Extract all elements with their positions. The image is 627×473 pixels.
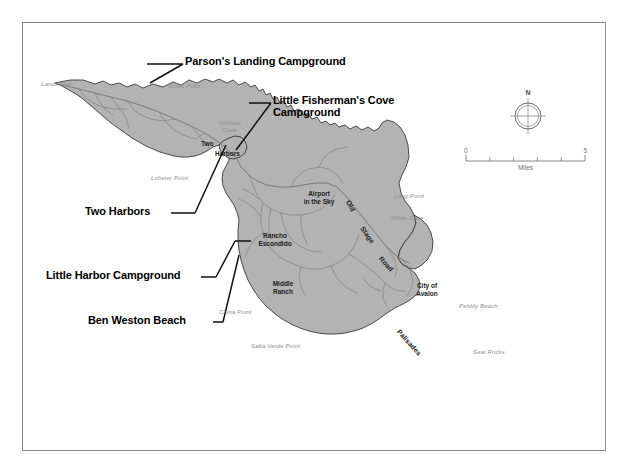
callout-label-little-fishermans-cove: Little Fisherman's Cove Campground xyxy=(273,95,423,118)
place-label-china-point: China Point xyxy=(219,309,252,316)
place-label-arrow-point: Arrow Point xyxy=(168,83,201,90)
callout-label-parsons-landing: Parson's Landing Campground xyxy=(185,56,346,68)
isthmus-cove-line-1: Isthmus xyxy=(219,120,241,126)
place-label-long-point: Long Point xyxy=(394,193,424,200)
place-label-isthmus-cove: Isthmus Cove xyxy=(213,120,247,134)
leader-line-parsons-landing xyxy=(147,64,183,83)
compass-rose: N xyxy=(505,89,551,137)
middle-ranch-line-2: Ranch xyxy=(273,288,293,295)
compass-north-letter: N xyxy=(505,89,551,96)
scale-bar-min-label: 0 xyxy=(464,147,468,154)
map-frame-border: Parson's Landing Campground Little Fishe… xyxy=(22,22,606,451)
middle-ranch-line-1: Middle xyxy=(273,280,294,287)
rancho-line-2: Escondido xyxy=(258,240,291,247)
two-harbors-line-2: Harbors xyxy=(215,150,240,157)
place-label-lobster-point: Lobster Point xyxy=(151,175,188,182)
place-label-white-cove: White Cove xyxy=(391,215,424,222)
map-page: Parson's Landing Campground Little Fishe… xyxy=(0,0,627,473)
avalon-line-2: Avalon xyxy=(416,290,437,297)
callout-label-ben-weston-beach: Ben Weston Beach xyxy=(88,315,186,327)
isthmus-cove-line-2: Cove xyxy=(223,127,238,133)
place-label-airport-in-the-sky: Airport in the Sky xyxy=(295,190,343,205)
scale-bar: 0 5 Miles xyxy=(463,147,588,173)
airport-line-2: in the Sky xyxy=(304,198,335,205)
place-label-seal-rocks: Seal Rocks xyxy=(473,349,505,356)
map-canvas: Parson's Landing Campground Little Fishe… xyxy=(23,23,605,450)
callout-line-2: Campground xyxy=(273,106,340,118)
airport-line-1: Airport xyxy=(308,190,330,197)
place-label-two-harbors-town: Two xyxy=(201,140,214,148)
scale-bar-units-label: Miles xyxy=(463,164,588,171)
callout-line-1: Little Fisherman's Cove xyxy=(273,94,394,106)
place-label-salta-verde-point: Salta Verde Point xyxy=(251,343,300,350)
place-label-middle-ranch: Middle Ranch xyxy=(263,280,303,295)
avalon-line-1: City of xyxy=(417,282,437,289)
place-label-two-harbors-town-2: Harbors xyxy=(215,150,240,158)
compass-rose-graphic xyxy=(505,89,551,137)
place-label-pebbly-beach: Pebbly Beach xyxy=(459,303,498,310)
rancho-line-1: Rancho xyxy=(263,232,287,239)
scale-bar-max-label: 5 xyxy=(583,147,587,154)
catalina-island-map-graphic xyxy=(23,23,605,450)
place-label-city-of-avalon: City of Avalon xyxy=(408,282,446,297)
callout-label-little-harbor: Little Harbor Campground xyxy=(46,270,181,282)
place-label-lands-end: Lands End xyxy=(41,81,71,88)
callout-label-two-harbors: Two Harbors xyxy=(85,206,150,218)
place-label-rancho-escondido: Rancho Escondido xyxy=(249,232,301,247)
two-harbors-line-1: Two xyxy=(201,140,214,147)
